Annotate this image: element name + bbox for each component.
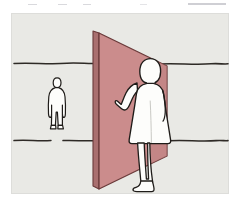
crop-mark-1 bbox=[28, 4, 37, 5]
panel-left-edge-thickness bbox=[93, 31, 99, 189]
crop-mark-4 bbox=[140, 4, 147, 5]
perspective-scale-diagram bbox=[11, 13, 229, 194]
upper-horizon-line-right bbox=[160, 64, 228, 65]
lower-ground-line-right bbox=[169, 140, 228, 141]
small-figure-foot-right bbox=[58, 125, 64, 128]
crop-mark-2 bbox=[58, 4, 67, 5]
figure-head bbox=[140, 59, 161, 84]
lower-ground-line-left-b bbox=[63, 140, 97, 141]
cropped-text-strip bbox=[0, 0, 237, 10]
upper-horizon-line-left bbox=[14, 63, 97, 64]
small-figure-head bbox=[53, 78, 61, 88]
crop-mark-3 bbox=[83, 4, 91, 5]
page-root bbox=[0, 0, 237, 204]
small-figure-foot-left bbox=[50, 125, 56, 128]
figure-legs bbox=[138, 143, 153, 184]
crop-mark-5 bbox=[188, 3, 226, 5]
